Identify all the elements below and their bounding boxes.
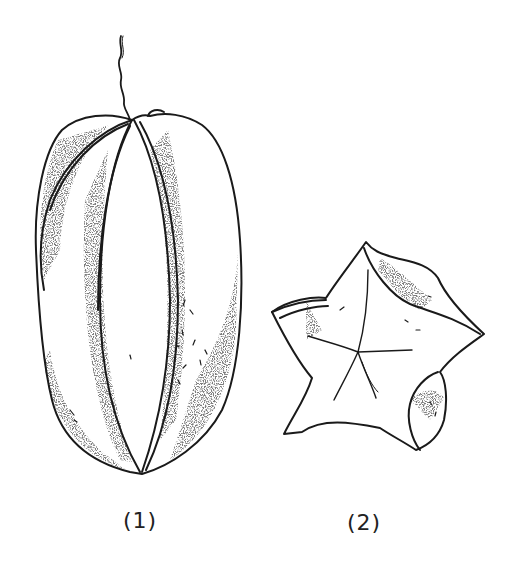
caption-figure-1: (1) (123, 508, 157, 533)
starfruit-cross-section (272, 242, 484, 450)
caption-figure-2: (2) (347, 510, 381, 535)
stem (119, 36, 130, 120)
starfruit-side-view (36, 36, 242, 474)
starfruit-illustration (0, 0, 514, 572)
star-outline (272, 242, 484, 450)
